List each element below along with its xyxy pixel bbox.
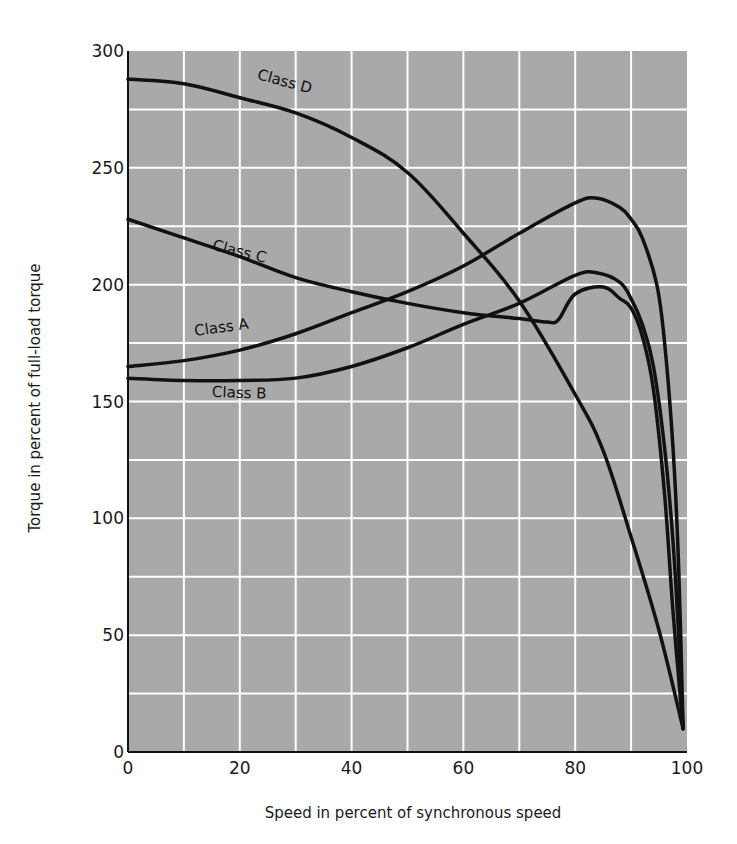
y-tick-label: 300 <box>92 41 124 61</box>
x-tick-label: 40 <box>341 758 363 778</box>
x-tick-label: 20 <box>229 758 251 778</box>
x-tick-label: 100 <box>671 758 703 778</box>
y-tick-label: 200 <box>92 275 124 295</box>
series-label-class-b: Class B <box>212 383 267 403</box>
x-tick-label: 0 <box>123 758 134 778</box>
y-tick-label: 50 <box>102 625 124 645</box>
torque-speed-chart: Class AClass BClass CClass D 05010015020… <box>0 0 737 844</box>
x-axis-label: Speed in percent of synchronous speed <box>265 804 562 822</box>
y-tick-label: 100 <box>92 508 124 528</box>
y-axis-label: Torque in percent of full-load torque <box>26 263 44 533</box>
x-tick-labels: 020406080100 <box>123 758 704 778</box>
y-tick-label: 150 <box>92 392 124 412</box>
x-tick-label: 60 <box>453 758 475 778</box>
y-tick-labels: 050100150200250300 <box>92 41 124 762</box>
x-tick-label: 80 <box>564 758 586 778</box>
y-tick-label: 250 <box>92 158 124 178</box>
